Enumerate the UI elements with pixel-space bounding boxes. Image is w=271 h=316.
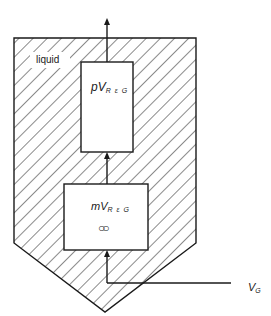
- lower-box-subscript: R ε G: [108, 206, 130, 213]
- lower-box-symbol: ○○: [98, 221, 107, 235]
- upper-box-pV: [81, 62, 133, 152]
- lower-box-label: mVR ε G: [91, 200, 130, 213]
- upper-box-subscript: R ε G: [106, 87, 128, 94]
- lower-box-main: mV: [91, 200, 108, 212]
- upper-box-label: pVR ε G: [91, 80, 128, 94]
- upper-box-main: pV: [91, 80, 106, 94]
- lower-box-mV: [64, 184, 148, 250]
- liquid-label: liquid: [36, 54, 59, 65]
- input-label: VG: [248, 281, 262, 294]
- liquid-vessel-diagram: [0, 0, 271, 316]
- input-label-subscript: G: [255, 287, 261, 294]
